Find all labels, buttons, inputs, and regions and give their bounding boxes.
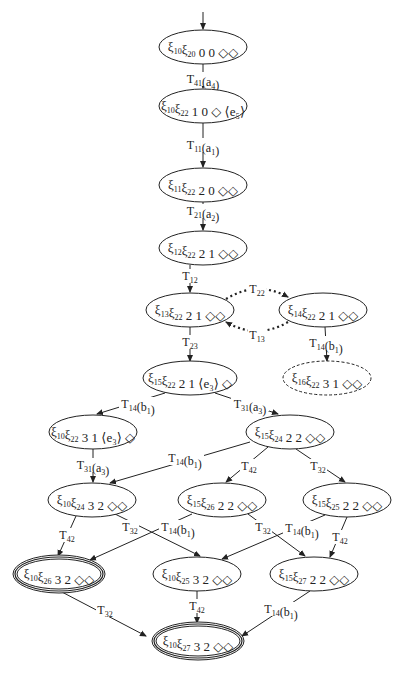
transition-edge: T23	[181, 327, 199, 361]
transition-edge: T32	[296, 449, 345, 482]
transition-edge: T14(b1)	[307, 327, 345, 361]
transition-edge: T14(b1)	[222, 515, 325, 559]
transition-edge: T42	[58, 516, 76, 556]
state-node-n8: ξ16ξ22 3 1 ◇◇	[283, 361, 371, 395]
transition-edge: T31(a3)	[215, 393, 278, 417]
state-node-n13: ξ15ξ25 2 2 ◇◇	[303, 483, 391, 517]
state-node-n12: ξ15ξ26 2 2 ◇◇	[178, 483, 266, 517]
state-node-n16: ξ15ξ27 2 2 ◇◇	[270, 557, 358, 591]
transition-edge: T14(b1)	[242, 591, 310, 636]
transition-edge: T21(a2)	[184, 202, 222, 230]
transition-edge: T42	[188, 591, 206, 623]
state-transition-diagram: T41(a4)T11(a1)T21(a2)T12T22T13T23T14(b1)…	[0, 0, 407, 674]
state-node-n4: ξ12ξ22 2 1 ◇◇	[159, 231, 247, 265]
state-node-n14: ξ10ξ26 3 2 ◇◇	[13, 555, 105, 593]
transition-edge: T12	[181, 265, 199, 292]
transition-edge: T13	[226, 322, 288, 344]
state-node-n10: ξ15ξ24 2 2 ◇◇	[246, 415, 334, 449]
transition-edge: T14(b1)	[110, 442, 250, 483]
state-node-n11: ξ10ξ24 3 2 ◇◇	[48, 483, 136, 517]
state-node-n6: ξ14ξ22 2 1 ◇◇	[279, 293, 367, 327]
transition-edge: T41(a4)	[184, 64, 222, 92]
state-node-n15: ξ10ξ25 3 2 ◇◇	[153, 557, 241, 591]
state-node-n7: ξ15ξ22 2 1 ⟨e₃⟩ ◇	[143, 361, 237, 395]
state-node-n5: ξ13ξ22 2 1 ◇◇	[146, 293, 234, 327]
state-node-n1: ξ10ξ20 0 0 ◇◇	[159, 30, 247, 64]
transition-edge: T32	[60, 591, 146, 636]
transition-edge: T14(b1)	[90, 514, 197, 560]
transition-edge: T42	[330, 517, 349, 557]
state-node-n9: ξ10ξ22 3 1 ⟨e₃⟩ ◇	[49, 415, 137, 449]
state-node-n3: ξ11ξ22 2 0 ◇◇	[159, 168, 247, 202]
transition-edge: T22	[226, 282, 288, 299]
transition-edge: T14(b1)	[97, 393, 165, 417]
transition-edge: T31(a3)	[74, 449, 112, 482]
transition-edge: T42	[226, 447, 268, 482]
state-node-n17: ξ10ξ27 3 2 ◇◇	[152, 622, 244, 660]
transition-edge: T11(a1)	[184, 123, 222, 167]
state-node-n2: ξ10ξ22 1 0 ◇ ⟨e₅⟩	[159, 89, 247, 123]
